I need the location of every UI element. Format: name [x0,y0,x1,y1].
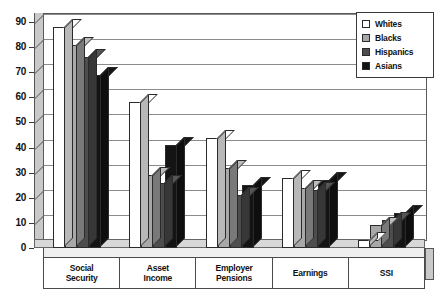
x-axis-category-label: Security [66,273,98,283]
bar [206,138,218,248]
bar-side-face [140,94,149,247]
y-tick-label: 70 [2,66,26,77]
legend-item-label: Whites [375,19,402,29]
legend-item-blacks[interactable]: Blacks [362,31,429,45]
bar-side-face [305,180,314,247]
x-axis-category-label: SSI [380,268,393,278]
x-axis-category-5: SSI [349,258,424,288]
bar [358,240,370,248]
x-axis-category-label: Asset [147,263,169,273]
x-axis-category-label: Earnings [293,268,328,278]
bar [129,102,141,248]
x-axis-category-label: Pensions [216,273,252,283]
bar-side-face [317,182,326,247]
x-axis-categories: SocialSecurityAssetIncomeEmployerPension… [43,257,425,289]
legend-item-whites[interactable]: Whites [362,17,429,31]
y-tick-label: 10 [2,217,26,228]
y-tick-mark [29,248,34,249]
bar-side-face [176,137,185,247]
x-axis-category-label: Employer [215,263,252,273]
legend-item-hispanics[interactable]: Hispanics [362,45,429,59]
x-axis-category-2: AssetIncome [120,258,196,288]
y-tick-label: 40 [2,142,26,153]
legend-swatch-icon [362,20,370,28]
y-tick-label: 60 [2,91,26,102]
bar-side-face [241,187,250,247]
legend-item-asians[interactable]: Asians [362,59,429,73]
bar [282,178,294,248]
y-tick-label: 30 [2,167,26,178]
legend-swatch-icon [362,34,370,42]
x-axis-category-1: SocialSecurity [44,258,120,288]
legend: WhitesBlacksHispanicsAsians [356,12,434,78]
legend-swatch-icon [362,48,370,56]
y-tick-label: 20 [2,192,26,203]
bar-side-face [293,170,302,247]
legend-swatch-icon [362,62,370,70]
bar-chart: 0102030405060708090 SocialSecurityAssetI… [0,0,443,297]
category-band-side [425,248,434,280]
y-tick-label: 0 [2,242,26,253]
category-band-top [43,248,425,257]
bar-side-face [217,130,226,247]
bar-side-face [64,19,73,247]
bar-side-face [76,37,85,247]
bar-side-face [100,67,109,247]
bar [53,27,65,248]
legend-item-label: Blacks [375,33,401,43]
x-axis-category-4: Earnings [273,258,349,288]
bar-side-face [152,167,161,247]
y-tick-label: 80 [2,41,26,52]
y-tick-label: 50 [2,116,26,127]
bar-side-face [88,49,97,247]
legend-item-label: Hispanics [375,47,413,57]
x-axis-category-3: EmployerPensions [196,258,272,288]
legend-item-label: Asians [375,61,402,71]
bar-side-face [164,175,173,247]
x-axis-category-label: Income [144,273,173,283]
y-tick-label: 90 [2,16,26,27]
bar-side-face [229,160,238,247]
x-axis-category-label: Social [70,263,94,273]
